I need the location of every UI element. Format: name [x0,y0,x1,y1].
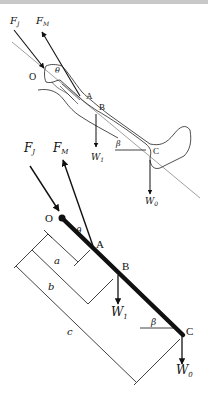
label-point-c: C [186,325,193,337]
label-dimension-c: c [67,326,73,337]
label-point-a: A [86,91,93,101]
label-angle-theta: θ [55,66,60,75]
label-point-b: B [99,102,105,112]
label-angle-beta: β [115,139,121,148]
free-body-diagram: FJ FM O θ A B W1 β C W0 [0,0,208,402]
force-joint-arrow [30,166,59,211]
label-angle-beta: β [150,317,156,327]
label-force-joint: FJ [9,15,20,28]
label-weight-foot: W0 [145,196,158,207]
pivot-point-o [59,215,66,222]
leg-axis-line [12,42,200,198]
label-force-muscle: FM [52,141,69,156]
force-muscle-arrow [42,32,80,96]
label-force-muscle: FM [35,15,50,27]
label-dimension-b: b [48,281,54,292]
label-force-joint: FJ [23,141,36,156]
force-joint-arrow [14,30,44,68]
label-weight-leg: W1 [111,305,128,321]
label-point-b: B [122,260,129,272]
label-angle-theta: θ [76,226,82,236]
label-point-o: O [45,212,53,224]
label-point-c: C [153,146,159,156]
label-dimension-a: a [54,255,60,266]
label-point-o: O [29,71,36,82]
label-weight-foot: W0 [176,363,193,379]
label-weight-leg: W1 [91,152,104,163]
bottom-panel: FJ FM O θ A B W1 β C W0 a b c [14,141,193,385]
label-point-a: A [96,238,104,250]
